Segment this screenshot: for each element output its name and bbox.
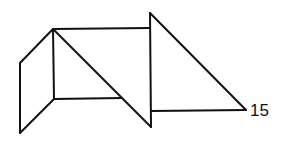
left-panel (20, 29, 54, 133)
inner-bottom-edge (54, 98, 122, 99)
figure-label: 15 (250, 101, 269, 120)
right-vertical-edge (150, 13, 151, 127)
right-bottom-edge (151, 110, 246, 111)
diagonal-edge (53, 29, 151, 127)
inner-vertical-edge (53, 29, 54, 99)
folded-shape-diagram: 15 (0, 0, 282, 146)
top-edge (53, 28, 150, 29)
right-hypotenuse (150, 13, 246, 110)
